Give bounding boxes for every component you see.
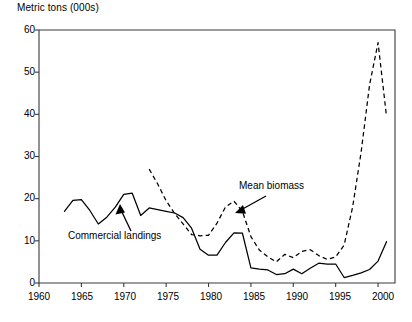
x-tick-label-1980: 1980 (191, 292, 231, 302)
y-axis-title: Metric tons (000s) (17, 2, 99, 14)
x-tick-label-2000: 2000 (363, 292, 403, 302)
series-line-mean-biomass (149, 43, 386, 262)
y-tick-label-0: 0 (13, 278, 35, 288)
y-tick-marks (35, 30, 39, 283)
plot-frame (39, 30, 395, 283)
x-tick-label-1970: 1970 (105, 292, 145, 302)
y-tick-label-40: 40 (13, 109, 35, 119)
y-tick-label-50: 50 (13, 67, 35, 77)
x-tick-marks (39, 283, 378, 287)
plot-area (0, 0, 412, 322)
annotation-arrow-mean-biomass (235, 196, 266, 214)
x-tick-label-1995: 1995 (320, 292, 360, 302)
x-tick-label-1960: 1960 (19, 292, 59, 302)
axis-frame (39, 30, 395, 283)
annotation-commercial-landings: Commercial landings (68, 230, 161, 241)
annotation-arrow-commercial-landings (116, 204, 132, 231)
x-tick-label-1985: 1985 (234, 292, 274, 302)
x-tick-label-1975: 1975 (148, 292, 188, 302)
y-tick-label-20: 20 (13, 193, 35, 203)
y-tick-label-30: 30 (13, 151, 35, 161)
y-tick-label-60: 60 (13, 25, 35, 35)
y-tick-label-10: 10 (13, 236, 35, 246)
x-tick-label-1965: 1965 (62, 292, 102, 302)
chart-figure: Metric tons (000s) 60 50 40 30 20 10 0 1… (0, 0, 412, 322)
x-tick-label-1990: 1990 (277, 292, 317, 302)
annotation-mean-biomass: Mean biomass (239, 180, 304, 191)
